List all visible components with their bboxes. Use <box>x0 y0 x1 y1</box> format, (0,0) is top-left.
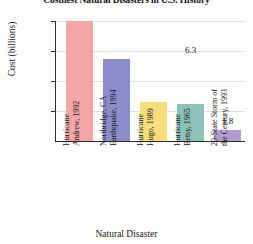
y-tick-mark-15 <box>51 51 55 52</box>
data-label-hurricane-betsy-1965: 6.3 <box>177 45 204 55</box>
x-tick-label-line1: 20-State Storm of <box>210 89 220 146</box>
x-tick-label-line1: Hurricane <box>136 108 146 146</box>
x-tick-label-line2: Betsy, 1965 <box>183 108 193 146</box>
x-tick-label-hurricane-andrew-1992: Hurricane Andrew, 1992 <box>62 101 81 146</box>
y-tick-mark-5 <box>51 111 55 112</box>
x-tick-label-line2: Earthquake, 1994 <box>109 90 119 146</box>
x-tick-label-line2: Hugo, 1989 <box>146 108 156 146</box>
x-tick-label-20-state-storm-1993: 20-State Storm of the Century, 1993 <box>210 89 229 146</box>
x-axis-title: Natural Disaster <box>0 229 253 239</box>
x-tick-label-hurricane-betsy-1965: Hurricane Betsy, 1965 <box>173 108 192 146</box>
x-tick-label-northridge-earthquake-1994: Northridge, CA Earthquake, 1994 <box>99 90 118 146</box>
x-tick-label-line1: Hurricane <box>62 101 72 146</box>
x-tick-label-line2: the Century, 1993 <box>220 89 230 146</box>
x-tick-label-hurricane-hugo-1989: Hurricane Hugo, 1989 <box>136 108 155 146</box>
x-tick-label-line2: Andrew, 1992 <box>72 101 82 146</box>
x-tick-label-line1: Hurricane <box>173 108 183 146</box>
y-tick-mark-20 <box>51 21 55 22</box>
y-tick-mark-10 <box>51 81 55 82</box>
y-axis-title: Cost (billions) <box>7 1 17 97</box>
chart-title: Costliest Natural Disasters in U.S. Hist… <box>0 0 253 5</box>
x-tick-label-line1: Northridge, CA <box>99 90 109 146</box>
chart-figure: Costliest Natural Disasters in U.S. Hist… <box>0 0 253 244</box>
